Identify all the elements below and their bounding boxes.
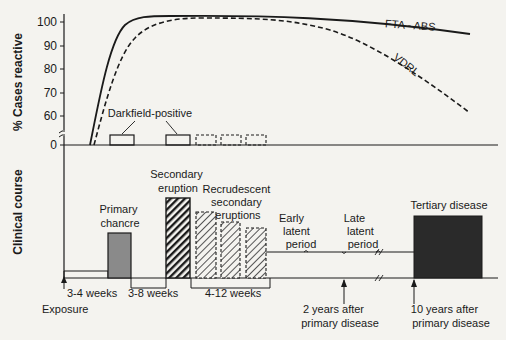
exposure-label: Exposure [42, 303, 88, 315]
y-axis-label: % Cases reactive [11, 33, 25, 131]
clinical-course-label: Clinical course [11, 169, 25, 255]
ten-years-label: 10 years after primary disease [411, 303, 490, 329]
darkfield-box-primary [110, 135, 134, 145]
tick-0: 0 [50, 138, 57, 152]
vdrl-label: VDRL [391, 51, 422, 79]
ten-years-arrowhead-icon [411, 279, 417, 287]
exposure-arrowhead-icon [61, 276, 67, 283]
darkfield-leader-1 [122, 121, 135, 134]
darkfield-boxes-recrudescent [196, 135, 266, 145]
fta-abs-label: FTA - ABS [385, 17, 436, 32]
early-latent-label: Early latent period [279, 212, 316, 250]
darkfield-label: Darkfield-positive [108, 107, 192, 119]
interval-4-12-weeks: 4-12 weeks [205, 287, 262, 299]
interval-3-4-weeks: 3-4 weeks [67, 287, 118, 299]
secondary-eruption-bar [166, 198, 190, 278]
primary-chancre-label: Primary chancre [100, 203, 141, 229]
primary-chancre-bar [108, 233, 131, 278]
tertiary-disease-bar [414, 216, 482, 278]
tick-70: 70 [44, 86, 58, 100]
tick-100: 100 [37, 15, 57, 29]
tick-60: 60 [44, 109, 58, 123]
recrudescent-bars [196, 212, 266, 278]
tertiary-disease-label: Tertiary disease [410, 199, 487, 211]
bottom-panel: Clinical course Primary chancre Secondar… [11, 168, 498, 329]
two-years-arrowhead-icon [341, 279, 347, 287]
interval-bracket-3-4 [64, 271, 108, 278]
darkfield-leader-2 [166, 121, 177, 134]
tick-80: 80 [44, 62, 58, 76]
vdrl-curve [94, 18, 470, 145]
tick-90: 90 [44, 39, 58, 53]
interval-3-8-weeks: 3-8 weeks [128, 287, 179, 299]
syphilis-serology-diagram: 100 90 80 70 60 0 % Cases reactive FTA -… [0, 0, 506, 340]
darkfield-box-secondary [166, 135, 190, 145]
two-years-label: 2 years after primary disease [301, 303, 379, 329]
secondary-eruption-label: Secondary eruption [150, 168, 206, 194]
fta-abs-curve [90, 16, 470, 145]
late-latent-label: Late latent period [344, 212, 379, 250]
